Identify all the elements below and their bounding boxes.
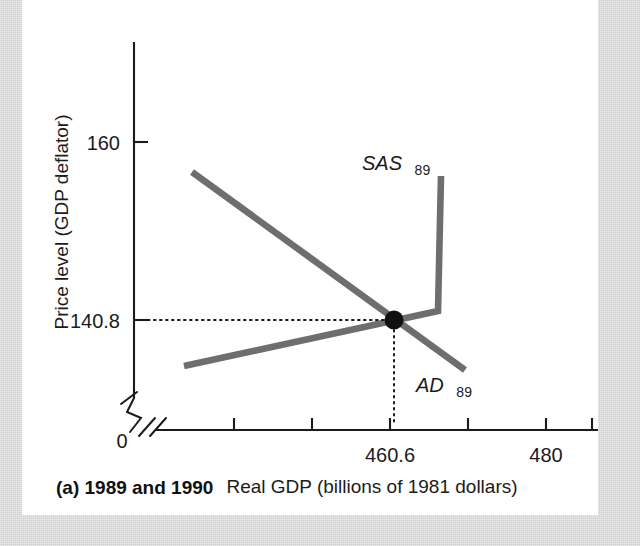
curve-label-sas-text: SAS [362,152,403,174]
curve-label-ad-89: AD 89 [415,374,472,400]
curve-label-ad-text: AD [415,374,444,396]
curve-label-sas-89: SAS 89 [362,152,430,178]
origin-label: 0 [116,430,127,452]
curve-sas-89 [184,176,441,366]
curve-label-sas-subscript: 89 [415,162,431,178]
y-axis-title: Price level (GDP deflator) [51,114,72,329]
x-axis-title: Real GDP (billions of 1981 dollars) [226,476,517,497]
y-axis-break-icon [127,398,141,432]
figure-caption: (a) 1989 and 1990 [56,477,213,498]
x-tick-label-480: 480 [529,444,562,466]
x-tick-label-460-6: 460.6 [365,444,415,466]
curve-label-ad-subscript: 89 [456,384,472,400]
y-tick-label-160: 160 [87,132,120,154]
figure-screenshot: 160 140.8 0 460.6 480 Real GDP (billions… [0,0,640,546]
figure-card: 160 140.8 0 460.6 480 Real GDP (billions… [22,0,598,515]
y-tick-label-140-8: 140.8 [70,310,120,332]
curve-ad-89 [192,172,465,370]
aggregate-demand-supply-chart: 160 140.8 0 460.6 480 Real GDP (billions… [22,0,598,515]
equilibrium-point-dot [385,311,404,330]
